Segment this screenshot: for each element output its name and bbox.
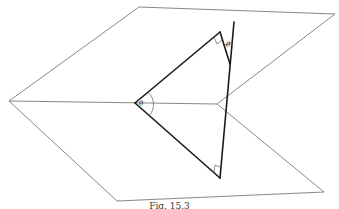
upper-plane (9, 7, 335, 104)
triangle (135, 32, 230, 178)
right-angle-mark-bottom (214, 165, 220, 172)
intersection-line (9, 101, 217, 104)
theta-label-left: θ (139, 100, 144, 108)
diagram-figure: θ θ (0, 0, 339, 209)
angle-arc-left (148, 92, 153, 116)
theta-label-top: θ (226, 41, 231, 49)
lower-plane (9, 101, 324, 201)
figure-caption: Fig. 15.3 (0, 201, 339, 209)
right-angle-mark-top (214, 37, 222, 44)
